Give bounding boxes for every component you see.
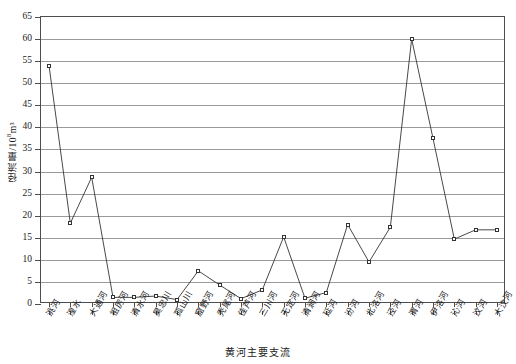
y-axis-exponent: 8	[5, 134, 12, 138]
data-point-marker	[196, 269, 200, 273]
y-axis-tick-label: 55	[23, 56, 33, 66]
data-point-marker	[474, 228, 478, 232]
data-point-marker	[388, 225, 392, 229]
data-point-marker	[111, 295, 115, 299]
y-axis-tick-label: 0	[27, 299, 32, 309]
y-axis-tick-label: 10	[23, 255, 33, 265]
data-point-marker	[452, 237, 456, 241]
y-axis-title-text: 径流量/10	[9, 137, 19, 182]
y-axis-title-unit: m³	[9, 122, 19, 133]
x-axis-title: 黄河主要支流	[0, 344, 516, 359]
data-point-marker	[410, 37, 414, 41]
chart-figure: 径流量/108m³ 05101520253035404550556065 洮河湟…	[0, 0, 516, 364]
y-axis-tick-label: 50	[23, 78, 33, 88]
plot-area: 05101520253035404550556065	[40, 16, 505, 303]
data-point-marker	[495, 228, 499, 232]
y-axis-tick-label: 30	[23, 167, 33, 177]
y-axis-title: 径流量/108m³	[2, 0, 24, 305]
y-axis-tick-label: 5	[27, 277, 32, 287]
y-axis-tick-label: 65	[23, 12, 33, 22]
data-point-marker	[431, 136, 435, 140]
y-axis-tick-label: 25	[23, 189, 33, 199]
data-point-marker	[260, 288, 264, 292]
y-axis-tick-label: 60	[23, 34, 33, 44]
y-axis-tick-label: 35	[23, 145, 33, 155]
y-axis-tick-label: 15	[23, 233, 33, 243]
y-axis-tick-label: 40	[23, 123, 33, 133]
x-axis-tick-labels: 洮河湟水大通河祖厉河清水河昊忠川孤山川窟野河秃尾河佳芦河三川河无定河清涧河延河汾…	[40, 303, 505, 349]
data-point-marker	[346, 223, 350, 227]
data-point-marker	[90, 175, 94, 179]
data-point-marker	[154, 294, 158, 298]
y-axis-tick-label: 20	[23, 211, 33, 221]
y-axis-tick-label: 45	[23, 101, 33, 111]
data-series-line	[41, 17, 506, 304]
series-polyline	[49, 39, 497, 300]
data-point-marker	[68, 221, 72, 225]
data-point-marker	[282, 235, 286, 239]
data-point-marker	[367, 260, 371, 264]
data-point-marker	[218, 283, 222, 287]
data-point-marker	[324, 291, 328, 295]
data-point-marker	[47, 64, 51, 68]
